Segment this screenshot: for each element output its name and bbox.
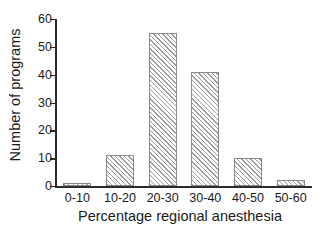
y-axis-tick-label: 30 [38, 95, 52, 111]
bar [191, 72, 219, 186]
x-axis-tick-label: 0-10 [56, 191, 99, 206]
bar-chart-figure: Number of programs 0102030405060 0-1010-… [0, 0, 328, 236]
bar [106, 155, 134, 186]
x-axis-tick-label: 50-60 [269, 191, 312, 206]
x-axis-tick-label: 10-20 [99, 191, 142, 206]
x-axis-line [55, 186, 312, 188]
y-axis-title: Number of programs [4, 2, 26, 188]
y-axis-tick-label: 0 [45, 178, 52, 194]
plot-area: 0102030405060 0-1010-2020-3030-4040-5050… [56, 19, 312, 186]
x-axis-tick-label: 30-40 [184, 191, 227, 206]
bar [277, 180, 305, 186]
x-axis-tick-label: 20-30 [141, 191, 184, 206]
y-axis-tick-label: 50 [38, 39, 52, 55]
y-axis-tick-label: 60 [38, 11, 52, 27]
bar [149, 33, 177, 186]
y-axis-tick-label: 40 [38, 67, 52, 83]
y-axis-tick-label: 10 [38, 150, 52, 166]
y-axis-tick-label: 20 [38, 122, 52, 138]
y-axis-line [55, 19, 57, 186]
bar [234, 158, 262, 186]
x-axis-title: Percentage regional anesthesia [40, 208, 320, 224]
x-axis-tick-label: 40-50 [227, 191, 270, 206]
bar [63, 183, 91, 186]
